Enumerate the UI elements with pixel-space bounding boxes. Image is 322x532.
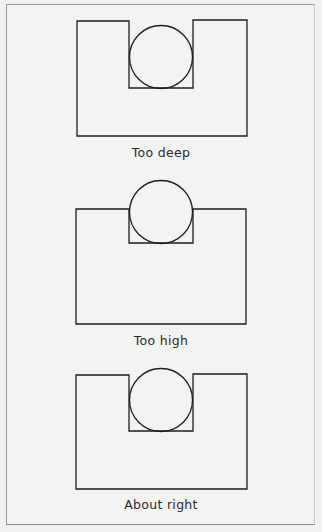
caption-about-right: About right <box>0 497 322 512</box>
figure-too-deep <box>77 20 247 136</box>
figure-too-high <box>76 181 246 325</box>
caption-too-deep: Too deep <box>0 145 322 160</box>
slot-outline <box>77 20 247 136</box>
ball-circle <box>130 369 193 432</box>
slot-outline <box>76 209 246 324</box>
caption-too-high: Too high <box>0 333 322 348</box>
figure-about-right <box>76 369 247 490</box>
ball-circle <box>130 181 193 244</box>
ball-circle <box>130 26 193 89</box>
fit-diagrams <box>0 0 322 532</box>
